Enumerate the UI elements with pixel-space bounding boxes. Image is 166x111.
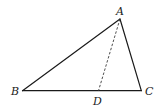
segment-ad-dashed <box>99 19 121 91</box>
triangle-diagram: A B C D <box>0 0 166 111</box>
label-a: A <box>115 5 124 18</box>
label-c: C <box>145 85 154 98</box>
segment-ab <box>23 19 121 91</box>
segment-ac <box>120 19 141 91</box>
label-d: D <box>92 95 102 108</box>
label-b: B <box>10 85 19 98</box>
